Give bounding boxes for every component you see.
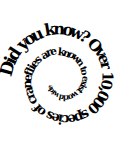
spiral-text-path: Didyouknow?Over10,000speciesofcraneflies… <box>0 0 129 145</box>
spiral-text-graphic: Didyouknow?Over10,000speciesofcraneflies… <box>0 0 129 145</box>
